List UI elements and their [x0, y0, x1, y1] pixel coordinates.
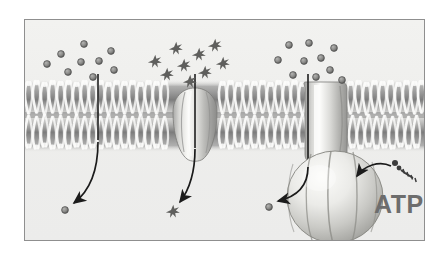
- atp-label: ATP: [374, 192, 424, 217]
- pump-protein-globular-domain: [287, 151, 383, 240]
- solute-inside-left: [62, 207, 69, 214]
- diagram-frame: ATP: [24, 19, 425, 241]
- membrane-transport-scene: [25, 20, 424, 240]
- solute-inside-right: [266, 204, 273, 211]
- figure-canvas: ATP: [0, 0, 447, 259]
- phospholipid-bilayer: [25, 80, 424, 152]
